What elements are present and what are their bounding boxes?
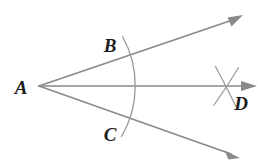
label-point-d: D [233, 93, 248, 114]
label-point-c: C [104, 124, 117, 145]
geometry-canvas: A B C D [0, 0, 272, 168]
label-vertex-a: A [14, 77, 28, 98]
lower-ray-arrowhead [225, 151, 241, 160]
geometry-figure: A B C D [0, 0, 272, 168]
upper-ray-line [39, 20, 234, 87]
label-point-b: B [103, 35, 117, 56]
upper-ray [39, 15, 243, 86]
upper-ray-arrowhead [228, 15, 244, 27]
lower-ray [39, 86, 240, 160]
bisector-ray-arrowhead [241, 81, 257, 91]
